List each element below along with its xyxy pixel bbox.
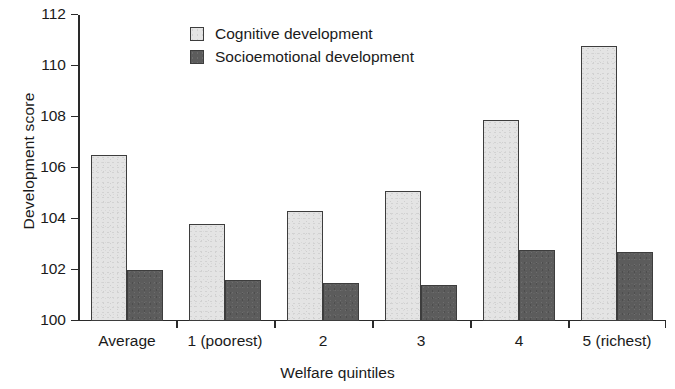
bar-cognitive <box>189 224 225 321</box>
y-axis-title: Development score <box>20 46 38 276</box>
y-tick: 110 <box>71 65 78 67</box>
y-axis-line <box>78 15 80 321</box>
x-axis-label: 3 <box>417 332 426 350</box>
x-axis-label: 2 <box>319 332 328 350</box>
y-tick: 104 <box>71 218 78 220</box>
bar-cognitive <box>385 191 421 321</box>
legend-swatch-icon-cognitive <box>190 27 204 41</box>
bar-socioemotional <box>323 283 359 321</box>
y-tick: 108 <box>71 116 78 118</box>
x-tick <box>568 321 570 328</box>
y-tick: 106 <box>71 167 78 169</box>
y-tick-label: 112 <box>41 5 66 23</box>
x-tick <box>470 321 472 328</box>
legend: Cognitive development Socioemotional dev… <box>190 22 414 68</box>
y-tick-label: 106 <box>40 158 66 176</box>
y-tick-label: 102 <box>40 260 66 278</box>
y-tick-label: 108 <box>40 107 66 125</box>
bar-socioemotional <box>617 252 653 321</box>
x-tick <box>274 321 276 328</box>
legend-label-socioemotional: Socioemotional development <box>215 48 414 66</box>
bar-cognitive <box>287 211 323 321</box>
x-axis-label: 4 <box>515 332 524 350</box>
bar-socioemotional <box>225 280 261 321</box>
x-tick <box>176 321 178 328</box>
bar-socioemotional <box>127 270 163 321</box>
x-tick <box>372 321 374 328</box>
legend-item-cognitive: Cognitive development <box>190 22 414 45</box>
x-tick <box>665 321 667 328</box>
y-tick-label: 100 <box>40 311 66 329</box>
y-tick: 112 <box>71 14 78 16</box>
legend-label-cognitive: Cognitive development <box>215 25 373 43</box>
bar-cognitive <box>91 155 127 321</box>
bar-cognitive <box>581 46 617 321</box>
y-tick: 102 <box>71 269 78 271</box>
legend-swatch-icon-socioemotional <box>190 50 204 64</box>
x-axis-label: 1 (poorest) <box>188 332 263 350</box>
bar-chart: Development score 100102104106108110112 … <box>0 0 675 389</box>
x-axis-label: Average <box>98 332 155 350</box>
x-axis-label: 5 (richest) <box>583 332 652 350</box>
x-axis-title: Welfare quintiles <box>0 364 675 382</box>
bar-socioemotional <box>421 285 457 321</box>
legend-item-socioemotional: Socioemotional development <box>190 45 414 68</box>
bar-socioemotional <box>519 250 555 321</box>
bar-cognitive <box>483 120 519 321</box>
y-tick-label: 110 <box>41 56 66 74</box>
y-tick-label: 104 <box>40 209 66 227</box>
y-tick: 100 <box>71 320 78 322</box>
